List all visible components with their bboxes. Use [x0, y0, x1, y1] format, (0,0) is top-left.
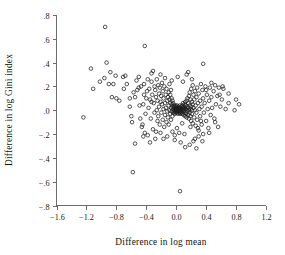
- data-point: [173, 138, 177, 142]
- data-point: [216, 125, 220, 129]
- data-point: [210, 95, 214, 99]
- data-point: [143, 44, 147, 48]
- data-point: [150, 80, 154, 84]
- data-point: [138, 104, 142, 108]
- data-point: [153, 88, 157, 92]
- data-point: [201, 62, 205, 66]
- data-point: [162, 137, 166, 141]
- data-point: [169, 118, 173, 122]
- data-point: [144, 112, 148, 116]
- data-point: [195, 95, 199, 99]
- data-point: [156, 119, 160, 123]
- data-point: [130, 120, 134, 124]
- x-tick-label: 0.8: [231, 213, 241, 222]
- data-point: [208, 86, 212, 90]
- plot-canvas: −1.6−1.2−0.8−0.40.00.40.81.2 −.8−.6−.4−.…: [0, 0, 285, 255]
- data-point: [233, 108, 237, 112]
- data-point: [177, 131, 181, 135]
- data-point: [227, 92, 231, 96]
- data-point: [207, 99, 211, 103]
- data-point: [135, 79, 139, 83]
- data-point: [181, 80, 185, 84]
- data-point: [188, 143, 192, 147]
- data-point: [140, 125, 144, 129]
- data-point: [200, 105, 204, 109]
- data-point: [159, 73, 163, 77]
- data-point: [203, 101, 207, 105]
- data-point: [176, 75, 180, 79]
- data-point: [103, 76, 107, 80]
- data-point: [159, 131, 163, 135]
- data-point: [149, 117, 153, 121]
- data-point: [156, 114, 160, 118]
- data-point: [210, 106, 214, 110]
- data-point: [169, 88, 173, 92]
- data-point: [204, 88, 208, 92]
- data-point: [161, 89, 165, 93]
- data-point: [180, 122, 184, 126]
- data-point: [207, 126, 211, 130]
- y-tick-label: .8: [43, 12, 49, 21]
- x-axis-title: Difference in log mean: [115, 237, 206, 247]
- data-point-layer: [82, 25, 241, 193]
- data-point: [158, 123, 162, 127]
- data-point: [207, 131, 211, 135]
- data-point: [179, 141, 183, 145]
- data-point: [89, 67, 93, 71]
- data-point: [128, 105, 132, 109]
- y-tick-label: −.2: [39, 131, 50, 140]
- data-point: [137, 75, 141, 79]
- data-point: [165, 87, 169, 91]
- data-point: [170, 79, 174, 83]
- data-point: [155, 77, 159, 81]
- data-point: [219, 105, 223, 109]
- y-tick-label: .4: [43, 60, 49, 69]
- data-point: [197, 129, 201, 133]
- data-point: [214, 103, 218, 107]
- data-point: [125, 82, 129, 86]
- x-tick-label: −0.4: [139, 213, 154, 222]
- data-point: [197, 135, 201, 139]
- data-point: [146, 133, 150, 137]
- data-point: [197, 92, 201, 96]
- data-point: [118, 99, 122, 103]
- x-tick-label: −1.2: [79, 213, 94, 222]
- data-point: [189, 125, 193, 129]
- data-point: [193, 89, 197, 93]
- data-point: [201, 88, 205, 92]
- data-point: [91, 87, 95, 91]
- data-point: [201, 139, 205, 143]
- x-tick-label: −0.8: [109, 213, 124, 222]
- data-point: [110, 95, 114, 99]
- data-point: [167, 123, 171, 127]
- data-point: [217, 86, 221, 90]
- scatter-plot-figure: −1.6−1.2−0.8−0.40.00.40.81.2 −.8−.6−.4−.…: [0, 0, 285, 255]
- data-point: [237, 103, 241, 107]
- data-point: [234, 98, 238, 102]
- data-point: [199, 82, 203, 86]
- y-tick-label: .2: [43, 83, 49, 92]
- data-point: [105, 61, 109, 65]
- x-tick-label: 0.0: [171, 213, 181, 222]
- data-point: [141, 123, 145, 127]
- data-point: [150, 93, 154, 97]
- data-point: [154, 130, 158, 134]
- data-point: [103, 25, 107, 29]
- data-point: [183, 132, 187, 136]
- y-tick-label: −.8: [39, 203, 50, 212]
- data-point: [162, 125, 166, 129]
- data-point: [183, 145, 187, 149]
- data-point: [146, 77, 150, 81]
- plot-axes: [57, 15, 267, 206]
- data-point: [160, 81, 164, 85]
- data-point: [107, 82, 111, 86]
- data-point: [224, 107, 228, 111]
- data-point: [144, 97, 148, 101]
- data-point: [190, 77, 194, 81]
- data-point: [222, 87, 226, 91]
- data-point: [168, 82, 172, 86]
- y-tick-label: −.4: [39, 155, 50, 164]
- data-point: [204, 119, 208, 123]
- x-tick-label: 1.2: [261, 213, 271, 222]
- data-point: [131, 170, 135, 174]
